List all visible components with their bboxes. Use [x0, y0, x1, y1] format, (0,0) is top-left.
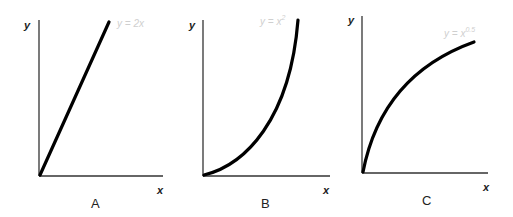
y-axis-label: y	[347, 14, 355, 26]
panel-b: y x y = x2 B	[188, 14, 330, 211]
square-root-curve	[363, 42, 474, 172]
panel-label: A	[91, 196, 100, 211]
linear-curve	[40, 22, 109, 175]
panel-label: B	[261, 196, 270, 211]
panel-label: C	[422, 193, 431, 208]
y-axis-label: y	[188, 19, 196, 31]
x-axis-label: x	[482, 181, 490, 193]
quadratic-curve	[204, 20, 298, 175]
panel-c: y x y = x0.5 C	[347, 14, 490, 208]
function-shapes-diagram: y x y = 2x A y x y = x2 B y x y = x0.5 C	[0, 0, 513, 217]
equation-label: y = x0.5	[443, 26, 475, 39]
y-axis-label: y	[23, 19, 31, 31]
x-axis-label: x	[322, 184, 330, 196]
panel-a: y x y = 2x A	[23, 18, 164, 211]
x-axis-label: x	[156, 184, 164, 196]
equation-label: y = 2x	[116, 18, 145, 29]
equation-label: y = x2	[259, 14, 285, 27]
